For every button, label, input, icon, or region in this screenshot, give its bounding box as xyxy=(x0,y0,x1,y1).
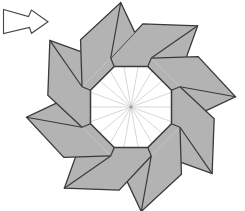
center-point xyxy=(129,105,132,108)
right-arrow-icon xyxy=(4,10,49,34)
pinwheel-diagram xyxy=(0,0,245,211)
